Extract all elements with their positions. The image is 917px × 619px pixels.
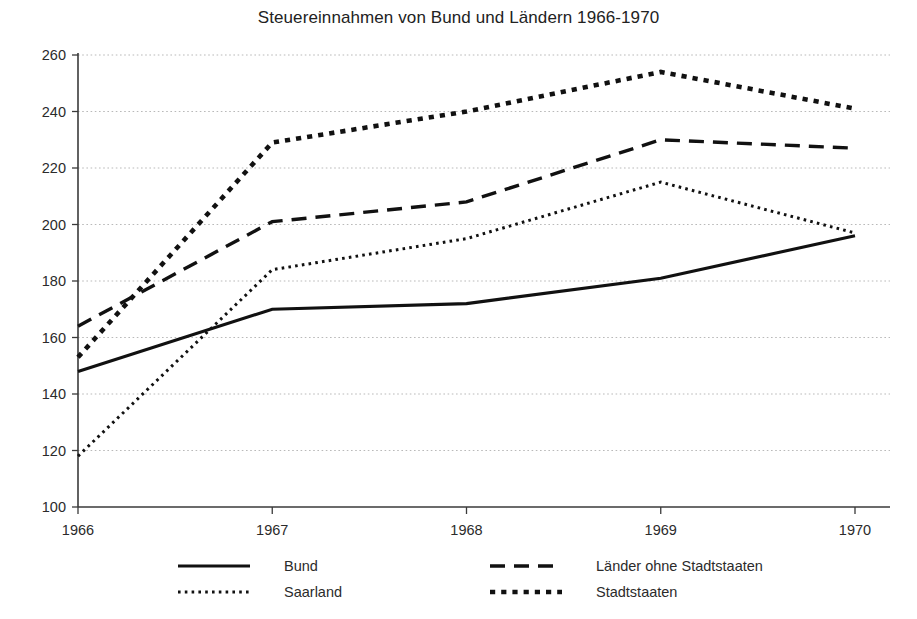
x-tick-label: 1968 bbox=[450, 522, 482, 538]
x-tick-label: 1966 bbox=[62, 522, 94, 538]
gridlines-group bbox=[78, 55, 890, 451]
series-group bbox=[78, 72, 855, 456]
x-tick-label: 1969 bbox=[645, 522, 677, 538]
x-axis-tick-labels: 19661967196819691970 bbox=[62, 522, 871, 538]
series-line-saarland bbox=[78, 182, 855, 456]
y-tick-label: 140 bbox=[42, 386, 66, 402]
series-line-stadtstaaten bbox=[78, 72, 855, 357]
x-tick-label: 1970 bbox=[839, 522, 871, 538]
y-tick-label: 100 bbox=[42, 499, 66, 515]
y-tick-label: 200 bbox=[42, 217, 66, 233]
y-tick-label: 260 bbox=[42, 47, 66, 63]
chart-container: Steuereinnahmen von Bund und Ländern 196… bbox=[0, 0, 917, 619]
y-tick-label: 160 bbox=[42, 330, 66, 346]
y-tick-label: 120 bbox=[42, 443, 66, 459]
y-axis-tick-labels: 100120140160180200220240260 bbox=[42, 47, 66, 515]
x-tick-label: 1967 bbox=[256, 522, 288, 538]
series-line-bund bbox=[78, 236, 855, 372]
legend-label-stadtstaaten: Stadtstaaten bbox=[596, 584, 677, 600]
axes-group bbox=[72, 53, 890, 514]
legend-label-l-nder-ohne-stadtstaaten: Länder ohne Stadtstaaten bbox=[596, 558, 763, 574]
legend-label-saarland: Saarland bbox=[284, 584, 342, 600]
y-tick-label: 240 bbox=[42, 104, 66, 120]
line-chart-plot: 100120140160180200220240260 196619671968… bbox=[0, 0, 917, 619]
legend-label-bund: Bund bbox=[284, 558, 318, 574]
y-tick-label: 220 bbox=[42, 160, 66, 176]
chart-legend: BundLänder ohne StadtstaatenSaarlandStad… bbox=[178, 558, 763, 600]
y-tick-label: 180 bbox=[42, 273, 66, 289]
